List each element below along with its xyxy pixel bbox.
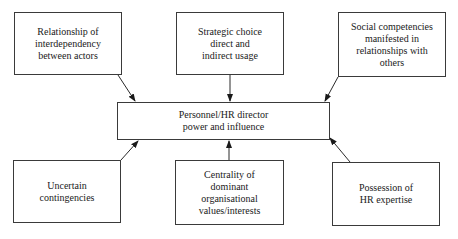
factor-label: Strategic choice direct and indirect usa… (198, 26, 262, 62)
factor-box-centrality-values: Centrality of dominant organisational va… (175, 160, 284, 225)
factor-box-interdependency: Relationship of interdependency between … (14, 12, 122, 75)
factor-box-social-competencies: Social competencies manifested in relati… (338, 12, 446, 77)
factor-label: Centrality of dominant organisational va… (182, 169, 277, 217)
factor-label: Social competencies manifested in relati… (351, 21, 433, 69)
factor-label: Possession of HR expertise (359, 182, 413, 206)
factor-box-strategic-choice: Strategic choice direct and indirect usa… (176, 12, 284, 75)
factor-label: Uncertain contingencies (40, 180, 95, 204)
center-box-hr-director-power: Personnel/HR director power and influenc… (117, 102, 330, 140)
arrow-top-left (118, 75, 135, 101)
arrow-top-right (325, 77, 338, 101)
factor-box-uncertain-contingencies: Uncertain contingencies (13, 160, 121, 223)
arrow-bottom-left (121, 141, 138, 160)
center-label: Personnel/HR director power and influenc… (179, 109, 269, 133)
factor-box-hr-expertise: Possession of HR expertise (332, 162, 440, 226)
factor-label: Relationship of interdependency between … (35, 26, 101, 62)
arrow-bottom-right (330, 138, 350, 162)
